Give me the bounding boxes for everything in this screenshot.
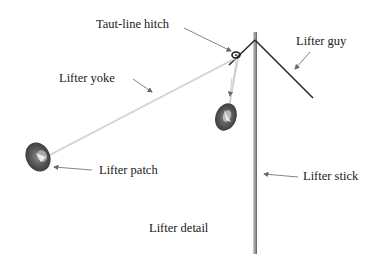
lifter-diagram: Taut-line hitch Lifter guy Lifter yoke L… bbox=[0, 0, 385, 266]
lifter-guy-line bbox=[229, 40, 313, 98]
lifter-yoke-label: Lifter yoke bbox=[59, 72, 115, 85]
lifter-guy-label: Lifter guy bbox=[296, 35, 346, 48]
lifter-guy-arrow bbox=[295, 52, 310, 69]
lifter-patch-arrow bbox=[54, 167, 92, 170]
lifter-yoke-arrow bbox=[133, 79, 152, 92]
lifter-stick-label: Lifter stick bbox=[303, 170, 358, 183]
taut-line-hitch-label: Taut-line hitch bbox=[96, 18, 169, 31]
diagram-caption: Lifter detail bbox=[149, 222, 208, 235]
lifter-patch-far bbox=[21, 138, 55, 175]
lifter-stick bbox=[253, 32, 257, 254]
taut-line-hitch-arrow bbox=[184, 28, 231, 51]
lifter-patch-near bbox=[211, 100, 240, 133]
leader-arrows bbox=[54, 28, 310, 177]
lifter-stick-arrow bbox=[264, 174, 298, 177]
lifter-patch-label: Lifter patch bbox=[99, 164, 158, 177]
